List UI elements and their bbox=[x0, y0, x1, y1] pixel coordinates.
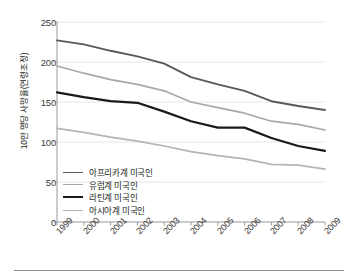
legend-item: 유럽계 미국인 bbox=[63, 179, 153, 192]
bottom-divider bbox=[14, 270, 344, 271]
legend-swatch bbox=[63, 184, 83, 185]
chart-legend: 아프리카계 미국인유럽계 미국인라틴계 미국인아시아계 미국인 bbox=[63, 166, 153, 216]
legend-item: 아프리카계 미국인 bbox=[63, 166, 153, 179]
legend-item-label: 아시아계 미국인 bbox=[89, 204, 145, 216]
legend-item: 아시아계 미국인 bbox=[63, 204, 153, 217]
legend-item-label: 아프리카계 미국인 bbox=[89, 166, 153, 178]
plot-area bbox=[0, 0, 358, 277]
series-line-3 bbox=[57, 128, 325, 169]
legend-swatch bbox=[63, 196, 83, 198]
line-chart: 10만 명당 사망율(연령조정) 250200150100500 1999200… bbox=[0, 0, 358, 277]
legend-swatch bbox=[63, 210, 83, 211]
legend-item-label: 라틴계 미국인 bbox=[89, 191, 137, 203]
legend-item-label: 유럽계 미국인 bbox=[89, 179, 137, 191]
legend-item: 라틴계 미국인 bbox=[63, 191, 153, 204]
legend-swatch bbox=[63, 172, 83, 173]
